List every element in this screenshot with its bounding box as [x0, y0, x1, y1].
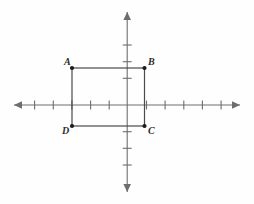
vertex-label-c: C	[148, 126, 155, 136]
x-axis-left-arrow	[14, 101, 22, 109]
y-axis-up-arrow	[123, 12, 131, 20]
point-c	[142, 124, 146, 128]
vertex-label-b: B	[148, 57, 155, 67]
point-d	[70, 124, 74, 128]
coordinate-plane-figure: A B C D	[0, 0, 254, 204]
point-b	[142, 66, 146, 70]
y-axis	[123, 12, 132, 192]
vertex-label-a: A	[64, 57, 71, 67]
y-axis-down-arrow	[123, 184, 131, 192]
vertex-points	[70, 66, 147, 128]
x-axis-right-arrow	[232, 101, 240, 109]
coordinate-plane-svg	[0, 0, 254, 204]
rectangle-abcd	[72, 68, 145, 126]
vertex-label-d: D	[62, 126, 69, 136]
